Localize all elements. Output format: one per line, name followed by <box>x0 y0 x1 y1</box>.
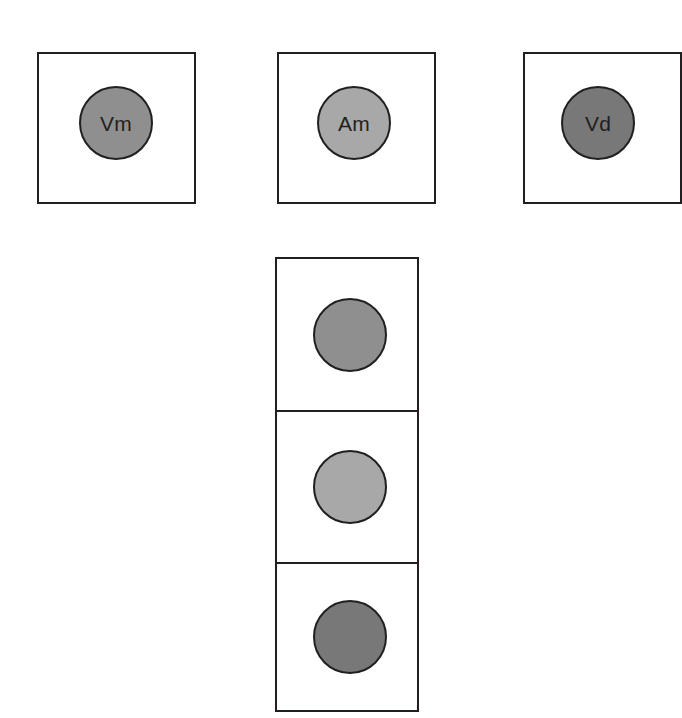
diagram-canvas: Vm Am Vd <box>0 0 682 718</box>
stack-circle-middle <box>313 450 387 524</box>
stack-circle-bottom <box>313 600 387 674</box>
compartment-box-vd: Vd <box>523 52 682 204</box>
compartment-label-vm: Vm <box>100 113 132 134</box>
compartment-circle-vm: Vm <box>79 86 153 160</box>
compartment-box-vm: Vm <box>37 52 196 204</box>
stack-cell-middle <box>277 410 417 562</box>
stack-circle-top <box>313 298 387 372</box>
compartment-circle-am: Am <box>317 86 391 160</box>
compartment-circle-vd: Vd <box>561 86 635 160</box>
stacked-compartment-column <box>275 257 419 712</box>
stack-cell-top <box>277 257 417 410</box>
stack-cell-bottom <box>277 562 417 712</box>
compartment-label-am: Am <box>338 113 370 134</box>
compartment-box-am: Am <box>277 52 436 204</box>
compartment-label-vd: Vd <box>585 113 611 134</box>
